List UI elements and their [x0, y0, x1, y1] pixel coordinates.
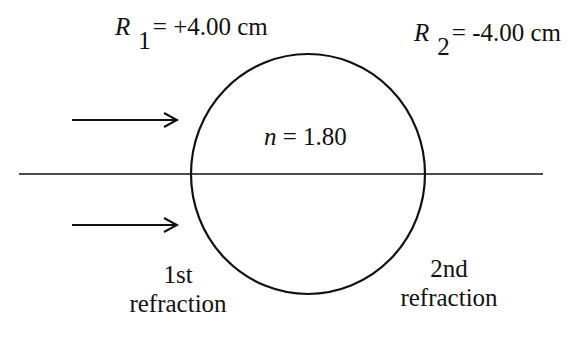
first-refraction-label: 1st refraction — [118, 262, 238, 316]
r2-symbol: R — [414, 19, 429, 46]
first-refraction-line1: 1st — [118, 262, 238, 287]
r1-label: R1= +4.00 cm — [115, 14, 268, 39]
second-refraction-line1: 2nd — [384, 256, 514, 281]
incoming-ray-bottom-arrow-icon — [72, 218, 177, 232]
r1-value: = +4.00 cm — [153, 13, 268, 40]
r2-subscript: 2 — [437, 33, 450, 60]
refractive-index-label: n = 1.80 — [264, 124, 347, 149]
n-symbol: n — [264, 123, 277, 150]
second-refraction-label: 2nd refraction — [384, 256, 514, 310]
r1-subscript: 1 — [138, 27, 151, 54]
r1-symbol: R — [115, 13, 130, 40]
second-refraction-line2: refraction — [384, 285, 514, 310]
n-value: = 1.80 — [283, 123, 347, 150]
r2-value: = -4.00 cm — [452, 19, 561, 46]
r2-label: R2= -4.00 cm — [414, 20, 561, 45]
incoming-ray-top-arrow-icon — [72, 113, 177, 127]
first-refraction-line2: refraction — [118, 291, 238, 316]
